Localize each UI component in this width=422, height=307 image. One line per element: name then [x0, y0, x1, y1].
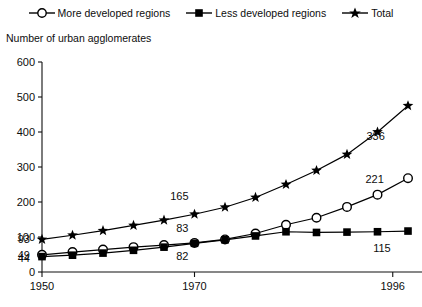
x-tick-label: 1950 — [30, 280, 54, 292]
filled-square-icon — [191, 240, 199, 248]
series-layer — [37, 100, 414, 260]
filled-square-icon — [160, 243, 168, 251]
data-point-label: 44 — [18, 252, 30, 264]
filled-star-icon — [159, 215, 170, 225]
filled-square-icon — [374, 228, 382, 236]
plot-area: 0100200300400500600195019701996 93494416… — [0, 0, 422, 307]
data-point-label: 336 — [366, 130, 384, 142]
series-more-developed-regions — [38, 174, 413, 259]
filled-square-icon — [343, 228, 351, 236]
filled-star-icon — [189, 209, 200, 219]
series-total — [37, 100, 414, 244]
filled-square-icon — [313, 229, 321, 237]
y-tick-label: 600 — [17, 56, 35, 68]
filled-star-icon — [281, 179, 292, 189]
open-circle-icon — [404, 174, 413, 183]
filled-star-icon — [250, 192, 261, 202]
y-tick-label: 200 — [17, 196, 35, 208]
filled-star-icon — [342, 149, 353, 159]
y-tick-label: 500 — [17, 91, 35, 103]
open-circle-icon — [343, 203, 352, 212]
open-circle-icon — [282, 220, 291, 229]
axes-layer: 0100200300400500600195019701996 — [17, 56, 422, 292]
filled-square-icon — [282, 228, 290, 236]
chart-container: More developed regions Less developed re… — [0, 0, 422, 307]
filled-star-icon — [311, 165, 322, 175]
data-point-label: 83 — [176, 222, 188, 234]
annotation-layer: 9349441658382336221115 — [18, 130, 391, 263]
data-point-label: 93 — [18, 233, 30, 245]
filled-square-icon — [252, 232, 260, 240]
filled-square-icon — [99, 249, 107, 257]
chart-axes — [42, 62, 422, 272]
y-tick-label: 400 — [17, 126, 35, 138]
filled-square-icon — [69, 251, 77, 259]
open-circle-icon — [373, 190, 382, 199]
data-point-label: 115 — [373, 242, 391, 254]
filled-square-icon — [130, 247, 138, 255]
x-tick-label: 1970 — [182, 280, 206, 292]
open-circle-icon — [312, 213, 321, 222]
y-tick-label: 0 — [29, 266, 35, 278]
data-point-label: 165 — [170, 190, 188, 202]
filled-star-icon — [67, 230, 78, 240]
series-line — [42, 106, 408, 240]
data-point-label: 221 — [365, 173, 383, 185]
filled-star-icon — [98, 225, 109, 235]
filled-square-icon — [221, 236, 229, 244]
data-point-label: 82 — [176, 250, 188, 262]
y-tick-label: 300 — [17, 161, 35, 173]
filled-star-icon — [220, 202, 231, 212]
x-tick-label: 1996 — [381, 280, 405, 292]
filled-star-icon — [128, 220, 139, 230]
filled-square-icon — [404, 227, 412, 235]
filled-square-icon — [38, 253, 46, 261]
